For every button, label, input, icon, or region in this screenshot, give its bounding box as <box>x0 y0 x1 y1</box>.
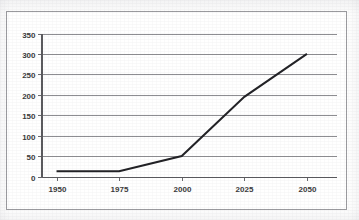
y-tick-label: 100 <box>22 133 36 142</box>
x-tick-label: 1975 <box>111 185 129 194</box>
y-tick-label: 350 <box>22 31 36 40</box>
y-axis-tick-labels: 050100150200250300350 <box>22 31 36 183</box>
chart-plot-area: 050100150200250300350 195019752000202520… <box>0 0 359 220</box>
gridlines-group <box>42 35 338 178</box>
y-tick-label: 0 <box>31 174 36 183</box>
x-tick-label: 2000 <box>174 185 192 194</box>
y-tick-label: 50 <box>27 153 36 162</box>
y-tick-label: 150 <box>22 112 36 121</box>
y-tick-label: 300 <box>22 51 36 60</box>
x-tick-label: 2025 <box>236 185 254 194</box>
chart-screenshot: · · · · · · · · · · 05010015020025030035… <box>0 0 359 220</box>
y-tick-label: 250 <box>22 71 36 80</box>
x-axis-tick-labels: 19501975200020252050 <box>49 185 317 194</box>
line-chart-svg: 050100150200250300350 195019752000202520… <box>0 0 359 220</box>
y-tick-label: 200 <box>22 92 36 101</box>
x-tick-label: 1950 <box>49 185 67 194</box>
y-axis-tick-marks <box>38 35 42 178</box>
x-tick-label: 2050 <box>299 185 317 194</box>
data-series-line <box>57 54 307 171</box>
